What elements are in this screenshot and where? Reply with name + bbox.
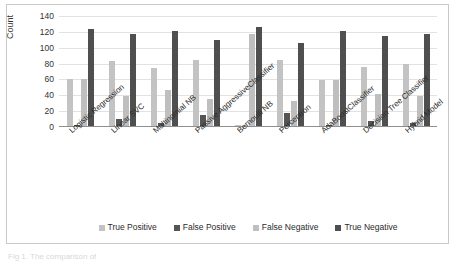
legend-label: False Positive (183, 223, 236, 232)
chart-frame: Count 020406080100120140 Logistic Regres… (6, 4, 449, 244)
y-axis-tick-120: 120 (40, 28, 54, 37)
bar[interactable] (193, 60, 199, 127)
y-axis-tick-80: 80 (45, 60, 54, 69)
legend-item[interactable]: True Negative (335, 223, 397, 232)
bar[interactable] (277, 60, 283, 127)
y-axis-tick-20: 20 (45, 107, 54, 116)
y-axis-tick-60: 60 (45, 75, 54, 84)
figure-caption: Fig 1. The comparison of (8, 252, 96, 262)
y-axis-tick-100: 100 (40, 44, 54, 53)
figure-container: Count 020406080100120140 Logistic Regres… (0, 0, 459, 271)
y-axis-tick-labels: 020406080100120140 (19, 9, 57, 134)
y-axis-tick-40: 40 (45, 91, 54, 100)
legend-item[interactable]: False Negative (253, 223, 319, 232)
bar[interactable] (151, 68, 157, 127)
legend-swatch-icon (253, 225, 259, 231)
legend-swatch-icon (335, 225, 341, 231)
legend-swatch-icon (174, 225, 180, 231)
legend-item[interactable]: False Positive (174, 223, 236, 232)
bar[interactable] (319, 80, 325, 127)
y-axis-title: Count (5, 15, 15, 39)
legend-label: False Negative (262, 223, 319, 232)
legend-item[interactable]: True Positive (99, 223, 157, 232)
y-axis-tick-140: 140 (40, 12, 54, 21)
chart-legend: True PositiveFalse PositiveFalse Negativ… (59, 223, 437, 232)
y-axis-tick-0: 0 (49, 123, 54, 132)
legend-label: True Negative (344, 223, 397, 232)
legend-swatch-icon (99, 225, 105, 231)
legend-label: True Positive (108, 223, 157, 232)
bar[interactable] (67, 79, 73, 127)
